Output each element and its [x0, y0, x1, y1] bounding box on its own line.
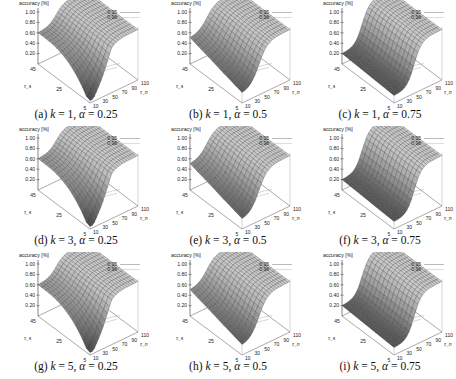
y-tick-label: 90 [283, 85, 289, 91]
caption-letter: (g) [34, 360, 47, 372]
y-tick-label: 110 [141, 80, 149, 86]
y-tick-label: 30 [255, 224, 261, 230]
z-tick-label: 0.80 [177, 271, 187, 277]
subplot-caption: (h) k = 5, α = 0.5 [152, 360, 304, 372]
y-axis-label: τ_n [444, 89, 452, 95]
z-tick-label: 0.60 [25, 30, 35, 36]
y-tick-label: 110 [293, 332, 301, 338]
y-tick-label: 90 [283, 337, 289, 343]
z-tick-label: 0.60 [25, 282, 35, 288]
z-tick-label: 1.00 [25, 261, 35, 267]
z-tick-label: 1.00 [177, 135, 187, 141]
y-tick-label: 30 [407, 224, 413, 230]
y-tick-label: 50 [416, 94, 422, 100]
z-tick-label: 1.00 [329, 9, 339, 15]
z-tick-label: 0.80 [25, 145, 35, 151]
subplot-a: 1.000.800.600.400.20accuracy [%]45255τ_s… [0, 0, 152, 126]
y-tick-label: 30 [407, 350, 413, 356]
y-tick-label: 90 [131, 211, 137, 217]
z-tick-label: 0.80 [25, 271, 35, 277]
y-tick-label: 50 [112, 346, 118, 352]
subplot-caption: (f) k = 3, α = 0.75 [304, 234, 456, 246]
y-tick-label: 110 [293, 80, 301, 86]
z-axis-label: accuracy [%] [323, 0, 353, 6]
y-axis-label: τ_n [292, 89, 300, 95]
legend-label: 0.96 [107, 266, 117, 272]
z-tick-label: 0.80 [25, 19, 35, 25]
accuracy-surface [38, 252, 138, 352]
y-axis-label: τ_n [444, 215, 452, 221]
y-axis-label: τ_n [444, 341, 452, 347]
z-tick-label: 0.40 [25, 40, 35, 46]
subplot-i: 1.000.800.600.400.20accuracy [%]45255τ_s… [304, 252, 456, 378]
caption-alpha-value: 0.25 [98, 360, 118, 372]
y-tick-label: 30 [103, 350, 109, 356]
y-tick-label: 90 [131, 337, 137, 343]
x-tick-label: 45 [30, 66, 36, 72]
x-axis-label: τ_s [24, 209, 32, 215]
surface-plot: 1.000.800.600.400.20accuracy [%]45255τ_s… [152, 252, 304, 364]
y-tick-label: 30 [255, 350, 261, 356]
y-tick-label: 70 [426, 89, 432, 95]
z-tick-label: 0.20 [25, 176, 35, 182]
z-tick-label: 0.60 [25, 156, 35, 162]
x-tick-label: 45 [334, 192, 340, 198]
z-tick-label: 0.40 [25, 166, 35, 172]
subplot-c: 1.000.800.600.400.20accuracy [%]45255τ_s… [304, 0, 456, 126]
y-axis-label: τ_n [140, 215, 148, 221]
y-tick-label: 90 [435, 211, 441, 217]
y-tick-label: 110 [293, 206, 301, 212]
z-tick-label: 0.60 [177, 282, 187, 288]
caption-alpha-value: 0.5 [253, 108, 267, 120]
z-tick-label: 0.20 [177, 50, 187, 56]
subplot-caption: (c) k = 1, α = 0.75 [304, 108, 456, 120]
x-tick-label: 45 [182, 66, 188, 72]
legend-label: 0.96 [259, 14, 269, 20]
caption-letter: (d) [34, 234, 47, 246]
x-tick-label: 25 [360, 338, 366, 344]
subplot-caption: (d) k = 3, α = 0.25 [0, 234, 152, 246]
surface-plot: 1.000.800.600.400.20accuracy [%]45255τ_s… [304, 252, 456, 364]
y-axis-label: τ_n [140, 341, 148, 347]
subplot-caption: (i) k = 5, α = 0.75 [304, 360, 456, 372]
x-tick-label: 25 [360, 212, 366, 218]
subplot-caption: (e) k = 3, α = 0.5 [152, 234, 304, 246]
accuracy-surface [342, 252, 442, 348]
legend-label: 0.96 [411, 14, 421, 20]
surface-plot: 1.000.800.600.400.20accuracy [%]45255τ_s… [152, 126, 304, 238]
caption-alpha-value: 0.75 [400, 360, 420, 372]
z-tick-label: 1.00 [329, 135, 339, 141]
x-axis-label: τ_s [176, 83, 184, 89]
x-axis-label: τ_s [176, 335, 184, 341]
x-tick-label: 45 [334, 318, 340, 324]
caption-alpha-value: 0.25 [97, 108, 117, 120]
subplot-caption: (g) k = 5, α = 0.25 [0, 360, 152, 372]
y-tick-label: 110 [445, 206, 453, 212]
x-tick-label: 25 [208, 338, 214, 344]
z-tick-label: 0.40 [329, 292, 339, 298]
y-tick-label: 90 [131, 85, 137, 91]
caption-alpha-value: 0.5 [253, 360, 267, 372]
x-axis-label: τ_s [328, 209, 336, 215]
y-tick-label: 110 [141, 332, 149, 338]
z-tick-label: 1.00 [177, 261, 187, 267]
y-tick-label: 70 [122, 341, 128, 347]
z-tick-label: 0.20 [177, 176, 187, 182]
y-tick-label: 50 [112, 220, 118, 226]
z-tick-label: 0.80 [329, 19, 339, 25]
y-tick-label: 70 [426, 341, 432, 347]
z-tick-label: 0.20 [329, 176, 339, 182]
y-tick-label: 30 [255, 98, 261, 104]
accuracy-surface [38, 126, 138, 226]
z-tick-label: 0.40 [329, 166, 339, 172]
z-tick-label: 0.40 [177, 292, 187, 298]
x-tick-label: 45 [334, 66, 340, 72]
z-tick-label: 1.00 [329, 261, 339, 267]
y-tick-label: 110 [445, 80, 453, 86]
x-tick-label: 25 [56, 86, 62, 92]
x-tick-label: 25 [360, 86, 366, 92]
y-tick-label: 70 [122, 89, 128, 95]
surface-plot: 1.000.800.600.400.20accuracy [%]45255τ_s… [0, 126, 152, 238]
legend-label: 0.96 [411, 266, 421, 272]
x-tick-label: 45 [182, 192, 188, 198]
